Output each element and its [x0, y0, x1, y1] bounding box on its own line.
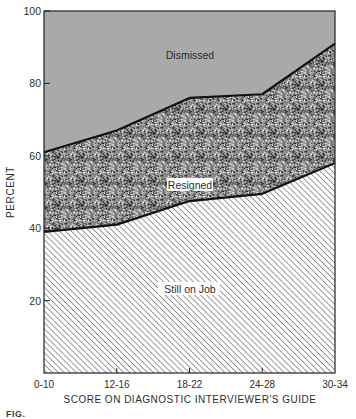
chart-canvas: 20406080100 0-1012-1618-2224-2830-34 Dis… — [0, 0, 356, 419]
figure-caption-fragment: FIG. — [6, 409, 26, 419]
y-axis-title: PERCENT — [5, 166, 16, 218]
label-still-on-job: Still on Job — [158, 282, 220, 295]
x-tick-label: 12-16 — [104, 379, 130, 390]
x-tick-label: 30-34 — [322, 379, 348, 390]
label-dismissed: Dismissed — [166, 49, 215, 61]
stacked-area-chart: 20406080100 0-1012-1618-2224-2830-34 Dis… — [0, 0, 356, 419]
y-tick-label: 20 — [29, 295, 41, 307]
y-tick-label: 60 — [29, 150, 41, 162]
y-tick-label: 80 — [29, 77, 41, 89]
region-label-resigned: Resigned — [168, 179, 213, 191]
x-tick-label: 18-22 — [177, 379, 203, 390]
chart-areas — [44, 11, 335, 373]
region-label-still-on-job: Still on Job — [164, 283, 216, 295]
x-tick-label: 24-28 — [249, 379, 275, 390]
y-tick-label: 40 — [29, 222, 41, 234]
x-tick-label: 0-10 — [34, 379, 54, 390]
x-axis-title: SCORE ON DIAGNOSTIC INTERVIEWER'S GUIDE — [64, 394, 317, 405]
y-tick-label: 100 — [23, 5, 41, 17]
label-resigned: Resigned — [167, 178, 213, 191]
region-label-dismissed: Dismissed — [166, 49, 215, 61]
